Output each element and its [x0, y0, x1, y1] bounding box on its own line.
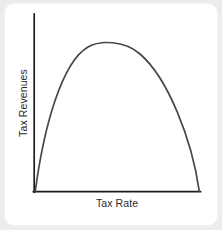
laffer-curve-path: [35, 43, 199, 192]
laffer-curve-plot: [0, 0, 222, 230]
y-axis-label: Tax Revenues: [17, 48, 29, 158]
x-axis-label: Tax Rate: [34, 197, 200, 209]
figure-root: Tax Revenues Tax Rate: [0, 0, 222, 230]
